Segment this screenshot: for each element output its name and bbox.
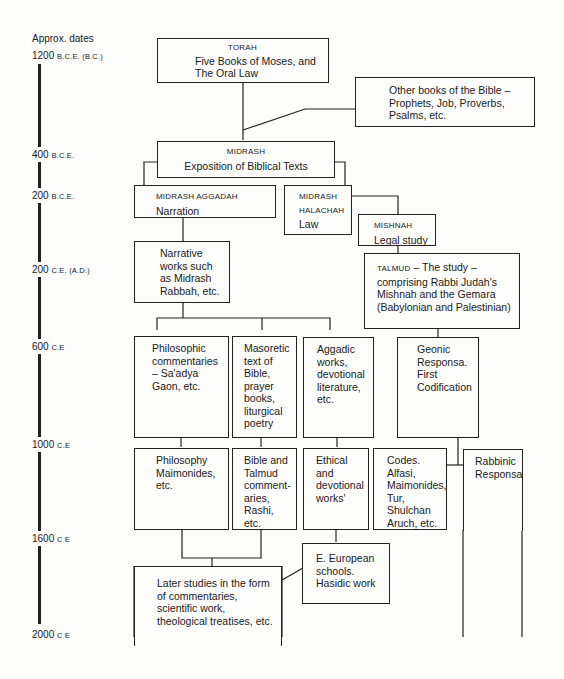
node-masoretic-text: Masoretic text of Bible, prayer books, l… <box>232 336 297 438</box>
node-label: MIDRASH AGGADAH <box>156 191 275 204</box>
node-text: Narration <box>156 205 275 218</box>
node-text: Five Books of Moses, and The Oral Law <box>195 55 320 80</box>
node-label: HALACHAH <box>299 205 351 218</box>
node-text: Bible and Talmud comment-aries, Rashi, e… <box>244 454 292 529</box>
node-text: Later studies in the form of commentarie… <box>157 577 273 627</box>
node-text: Philosophic commentaries – Sa'adya Gaon,… <box>152 342 224 392</box>
node-label: MIDRASH <box>158 146 334 159</box>
node-geonic-responsa: Geonic Responsa. First Codification <box>397 337 479 438</box>
node-text: Philosophy Maimonides, etc. <box>156 454 224 492</box>
node-text: Law <box>299 218 351 231</box>
node-text: Rabbinic Responsa <box>475 455 520 480</box>
node-mishnah: MISHNAH Legal study <box>358 214 436 246</box>
node-text: Codes. Alfasi, Maimonides, Tur, Shulchan… <box>387 454 443 529</box>
node-bible-talmud-commentaries: Bible and Talmud comment-aries, Rashi, e… <box>232 448 297 530</box>
node-rabbinic-responsa: Rabbinic Responsa <box>463 449 523 531</box>
node-label: MIDRASH <box>299 191 351 204</box>
node-text: Masoretic text of Bible, prayer books, l… <box>244 342 292 430</box>
node-talmud: TALMUD – The study – comprising Rabbi Ju… <box>364 253 520 329</box>
node-text: Legal study <box>374 234 435 247</box>
node-other-books: Other books of the Bible – Prophets, Job… <box>355 77 535 127</box>
node-aggadic-works: Aggadic works, devotional literature, et… <box>303 337 374 438</box>
node-label: TORAH <box>195 42 328 55</box>
node-label: MISHNAH <box>374 220 435 233</box>
node-text: Ethical and devotional works' <box>316 454 365 504</box>
node-narrative-works: Narrative works such as Midrash Rabbah, … <box>134 241 230 303</box>
node-ethical-devotional: Ethical and devotional works' <box>303 448 369 530</box>
node-text: Exposition of Biblical Texts <box>158 160 334 173</box>
node-e-european-schools: E. European schools. Hasidic work <box>302 543 390 604</box>
node-text: Aggadic works, devotional literature, et… <box>317 343 370 406</box>
node-label: TALMUD <box>377 264 411 273</box>
node-text: E. European schools. Hasidic work <box>316 552 385 590</box>
node-torah: TORAH Five Books of Moses, and The Oral … <box>157 38 329 83</box>
node-codes: Codes. Alfasi, Maimonides, Tur, Shulchan… <box>373 448 447 530</box>
node-midrash-halachah: MIDRASH HALACHAH Law <box>284 185 352 235</box>
node-text: Other books of the Bible – Prophets, Job… <box>389 84 524 122</box>
node-philosophic-commentaries: Philosophic commentaries – Sa'adya Gaon,… <box>134 336 229 438</box>
node-midrash-aggadah: MIDRASH AGGADAH Narration <box>134 185 276 218</box>
node-later-studies: Later studies in the form of commentarie… <box>134 566 282 646</box>
node-philosophy-maimonides: Philosophy Maimonides, etc. <box>134 448 229 530</box>
node-text: Narrative works such as Midrash Rabbah, … <box>160 247 223 297</box>
node-midrash: MIDRASH Exposition of Biblical Texts <box>157 141 335 178</box>
node-text: Geonic Responsa. First Codification <box>417 343 474 393</box>
